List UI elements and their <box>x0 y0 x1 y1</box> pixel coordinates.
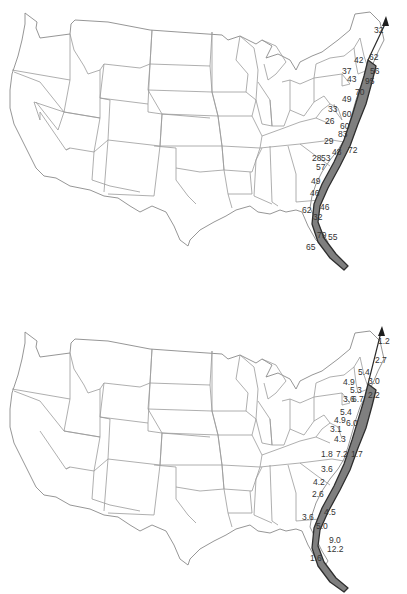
value-label: 3.6 <box>321 465 333 474</box>
value-label: 46 <box>320 203 329 212</box>
value-label: 2.6 <box>312 490 324 499</box>
value-label: 70 <box>355 88 364 97</box>
value-label: 1.2 <box>378 337 390 346</box>
value-label: 4.5 <box>324 508 336 517</box>
value-label: 3.1 <box>330 425 342 434</box>
value-label: 3.6 <box>302 513 314 522</box>
arrowhead-icon <box>378 326 385 336</box>
value-label: 42 <box>354 56 363 65</box>
value-label: 7.2 <box>336 450 348 459</box>
value-label: 48 <box>332 148 341 157</box>
value-label: 43 <box>347 75 356 84</box>
value-label: 32 <box>374 26 383 35</box>
value-label: 6.0 <box>346 419 358 428</box>
value-label: 2.7 <box>375 356 387 365</box>
state-borders <box>12 349 372 527</box>
us-map-top <box>0 0 407 297</box>
value-label: 2.2 <box>368 391 380 400</box>
value-label: 29 <box>324 137 333 146</box>
value-label: 57 <box>316 163 325 172</box>
value-label: 32 <box>313 213 322 222</box>
value-label: 62 <box>302 206 311 215</box>
value-label: 33 <box>328 105 337 114</box>
value-label: 3.0 <box>368 377 380 386</box>
value-label: 79 <box>317 231 326 240</box>
value-label: 56 <box>370 67 379 76</box>
value-label: 46 <box>310 189 319 198</box>
value-label: 6.7 <box>352 395 364 404</box>
value-label: 1.6 <box>310 554 322 563</box>
map-panel-top: 3242623756439570493360266083297248285357… <box>0 0 407 297</box>
value-label: 83 <box>338 130 347 139</box>
value-label: 26 <box>325 117 334 126</box>
value-label: 65 <box>306 243 315 252</box>
value-label: 4.3 <box>334 435 346 444</box>
value-label: 1.8 <box>321 450 333 459</box>
value-label: 1.7 <box>351 450 363 459</box>
value-label: 49 <box>342 95 351 104</box>
value-label: 55 <box>328 233 337 242</box>
arrowhead-icon <box>382 16 389 26</box>
value-label: 49 <box>311 177 320 186</box>
value-label: 5.0 <box>316 522 328 531</box>
value-label: 62 <box>369 53 378 62</box>
value-label: 95 <box>365 77 374 86</box>
map-panel-bottom: 1.22.75.44.93.05.32.23.66.75.44.96.03.14… <box>0 322 407 594</box>
us-outline <box>10 12 384 248</box>
value-label: 4.2 <box>313 478 325 487</box>
value-label: 60 <box>342 110 351 119</box>
value-label: 12.2 <box>327 545 344 554</box>
value-label: 72 <box>348 146 357 155</box>
